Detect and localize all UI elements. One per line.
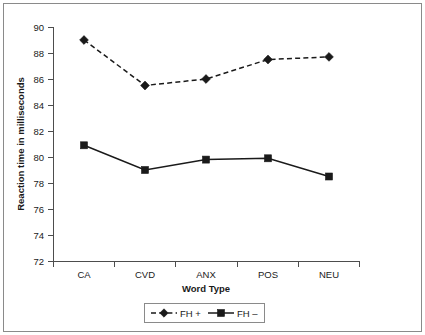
x-tick-label: POS xyxy=(258,269,278,280)
data-point-marker xyxy=(202,75,211,84)
data-point-marker xyxy=(325,53,334,62)
x-tick-label: CA xyxy=(77,269,91,280)
legend-label-fh-plus: FH + xyxy=(180,308,201,319)
data-point-marker xyxy=(326,173,333,180)
y-tick-label: 76 xyxy=(33,204,44,215)
data-point-marker xyxy=(142,167,149,174)
y-tick-label: 82 xyxy=(33,126,44,137)
x-tick-marks xyxy=(54,262,360,268)
data-point-marker xyxy=(265,155,272,162)
y-tick-label: 78 xyxy=(33,178,44,189)
y-tick-label: 72 xyxy=(33,256,44,267)
y-tick-label: 84 xyxy=(33,100,44,111)
legend-square-icon xyxy=(218,310,225,317)
legend-label-fh-minus: FH – xyxy=(237,308,258,319)
series-fh-minus xyxy=(81,142,333,180)
x-tick-labels: CA CVD ANX POS NEU xyxy=(77,269,339,280)
y-axis-title: Reaction time in milliseconds xyxy=(15,77,26,211)
y-tick-label: 80 xyxy=(33,152,44,163)
figure-root: 90 88 86 84 82 80 78 76 74 72 CA CVD ANX… xyxy=(0,0,425,335)
x-tick-label: CVD xyxy=(135,269,155,280)
data-point-marker xyxy=(141,81,150,90)
y-tick-label: 74 xyxy=(33,230,44,241)
data-point-marker xyxy=(264,55,273,64)
y-tick-labels: 90 88 86 84 82 80 78 76 74 72 xyxy=(33,22,44,267)
y-tick-marks xyxy=(48,28,54,262)
y-tick-label: 88 xyxy=(33,48,44,59)
line-chart: 90 88 86 84 82 80 78 76 74 72 CA CVD ANX… xyxy=(0,0,425,335)
chart-legend[interactable]: FH + FH – xyxy=(145,304,265,323)
x-axis-title: Word Type xyxy=(182,283,230,294)
data-point-marker xyxy=(81,142,88,149)
data-point-marker xyxy=(203,156,210,163)
x-tick-label: NEU xyxy=(319,269,339,280)
y-tick-label: 90 xyxy=(33,22,44,33)
x-tick-label: ANX xyxy=(196,269,216,280)
y-tick-label: 86 xyxy=(33,74,44,85)
series-fh-plus xyxy=(80,36,334,90)
